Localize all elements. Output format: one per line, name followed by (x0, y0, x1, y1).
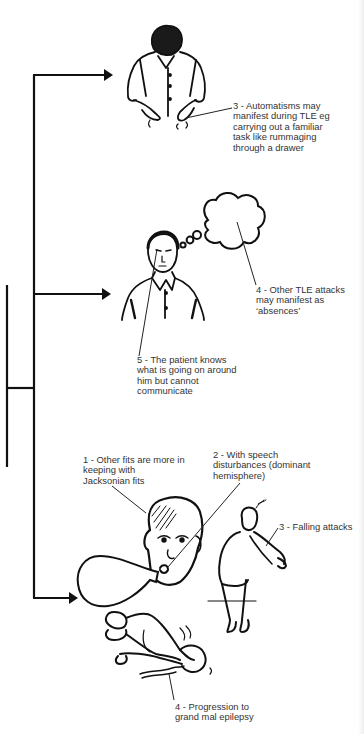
label-absences: 4 - Other TLE attacks may manifest as ‘a… (256, 285, 345, 316)
label-jacksonian: 1 - Other fits are more in keeping with … (83, 455, 185, 486)
leader-awareness (139, 249, 157, 356)
figure-automatisms-man (128, 26, 205, 129)
arrowhead-icon (102, 288, 111, 300)
label-line: through a drawer (233, 143, 330, 153)
flow-connectors (7, 75, 106, 598)
hatched-region (152, 506, 176, 530)
thought-bubble (180, 193, 264, 249)
label-falling: 3 - Falling attacks (279, 522, 352, 532)
label-awareness: 5 - The patient knows what is going on a… (137, 355, 237, 397)
label-speech: 2 - With speech disturbances (dominant h… (213, 450, 310, 481)
label-line: hemisphere) (213, 471, 310, 481)
leader-grand-mal (169, 674, 174, 700)
arrowheads (69, 69, 113, 604)
label-line: Jacksonian fits (83, 476, 185, 486)
leader-speech (168, 483, 240, 567)
label-line: communicate (137, 386, 237, 396)
leader-jacksonian (112, 486, 146, 513)
figure-falling-man (208, 500, 286, 632)
speech-bubble (78, 556, 158, 606)
figure-absence-man (122, 232, 204, 320)
figure-grand-mal-man (106, 612, 212, 678)
label-line: ‘absences’ (256, 306, 345, 316)
label-line: grand mal epilepsy (175, 712, 254, 722)
leader-falling (266, 528, 278, 546)
arrowhead-icon (104, 69, 113, 81)
arrowhead-icon (69, 592, 78, 604)
label-grand-mal: 4 - Progression to grand mal epilepsy (175, 702, 254, 723)
label-automatisms: 3 - Automatisms may manifest during TLE … (233, 101, 330, 153)
label-line: 3 - Falling attacks (279, 522, 352, 532)
